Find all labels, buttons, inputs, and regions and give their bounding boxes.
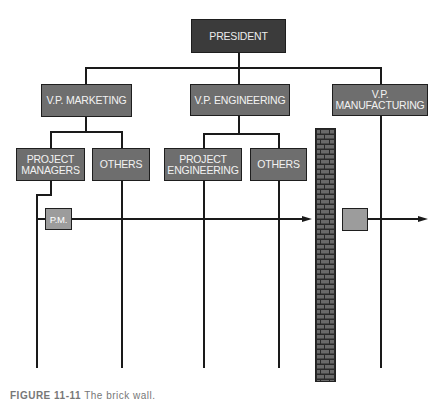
vp-branch-line (85, 67, 382, 69)
vp-marketing-drop (85, 67, 87, 84)
handoff-arrow-line (368, 218, 418, 220)
arrowhead-icon (418, 216, 428, 222)
marketing-others-drop (121, 131, 123, 148)
pm-drop (50, 131, 52, 148)
project-engineering-drop (203, 133, 205, 148)
marketing-stem (85, 117, 87, 132)
engineering-branch-line (203, 133, 280, 135)
project-engineering-box: PROJECT ENGINEERING (164, 148, 242, 181)
marketing-others-box: OTHERS (92, 148, 150, 181)
pm-connector (37, 218, 45, 220)
vp-engineering-drop (238, 67, 240, 84)
brick-wall-icon (316, 129, 335, 381)
vp-marketing-label: V.P. MARKETING (46, 95, 126, 106)
project-engineering-label-line1: PROJECT (179, 154, 227, 165)
president-label: PRESIDENT (209, 31, 267, 42)
vp-manufacturing-drop (380, 67, 382, 84)
engineering-others-drop (278, 133, 280, 148)
project-managers-label-line2: MANAGERS (21, 165, 80, 176)
engineering-others-box: OTHERS (250, 148, 307, 181)
engineering-stem (238, 116, 240, 134)
project-engineering-vertical (203, 181, 205, 368)
brick-wall (315, 128, 336, 382)
project-flow-arrow-line (72, 218, 302, 220)
engineering-others-vertical (278, 181, 280, 368)
pm-jog-horizontal (36, 194, 52, 196)
manufacturing-vertical (380, 116, 382, 368)
president-stem (238, 53, 240, 68)
figure-title: The brick wall. (84, 390, 155, 401)
vp-engineering-box: V.P. ENGINEERING (190, 84, 290, 116)
marketing-others-vertical (121, 181, 123, 368)
arrowhead-icon (302, 216, 312, 222)
handoff-box (342, 208, 368, 231)
vp-marketing-box: V.P. MARKETING (41, 84, 132, 117)
figure-number: FIGURE 11-11 (10, 390, 81, 401)
pm-long-vertical (36, 194, 38, 368)
vp-engineering-label: V.P. ENGINEERING (195, 95, 286, 106)
project-managers-box: PROJECT MANAGERS (16, 148, 85, 181)
project-engineering-label-line2: ENGINEERING (167, 165, 238, 176)
pm-box: P.M. (45, 208, 72, 230)
figure-caption: FIGURE 11-11 The brick wall. (10, 390, 156, 401)
marketing-branch-line (50, 131, 123, 133)
vp-manufacturing-box: V.P. MANUFACTURING (332, 84, 428, 116)
vp-manufacturing-label-line2: MANUFACTURING (336, 100, 425, 111)
pm-label: P.M. (50, 214, 68, 225)
project-managers-label-line1: PROJECT (27, 154, 75, 165)
marketing-others-label: OTHERS (100, 159, 143, 170)
engineering-others-label: OTHERS (257, 159, 300, 170)
president-box: PRESIDENT (191, 19, 286, 53)
